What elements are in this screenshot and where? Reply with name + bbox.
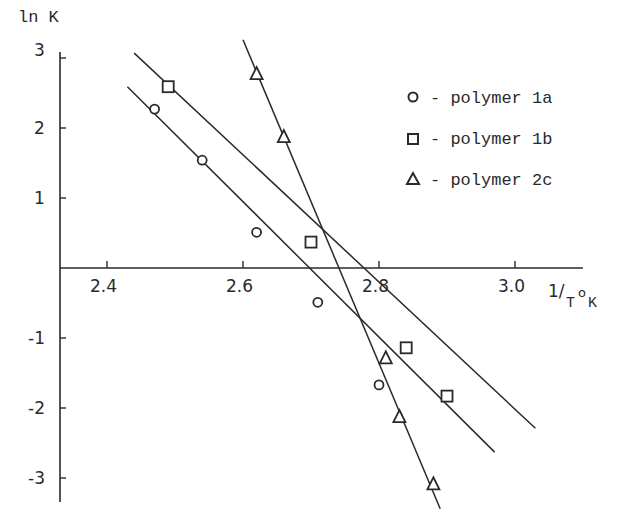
data-point-circle (313, 298, 322, 307)
x-axis-label-t: T (566, 295, 575, 312)
x-tick-label: 3.0 (498, 276, 525, 296)
legend-circle-icon (409, 93, 418, 102)
data-point-circle (150, 105, 159, 114)
y-tick-label: 3 (34, 40, 45, 60)
data-point-square (401, 342, 412, 353)
legend-label-1a: - polymer 1a (430, 89, 552, 108)
y-tick-label: -2 (28, 398, 45, 418)
fit-lines (127, 40, 535, 509)
data-point-square (442, 391, 453, 402)
legend-label-1b: - polymer 1b (430, 130, 552, 149)
x-tick-label: 2.6 (226, 276, 253, 296)
y-tick-label: 2 (34, 118, 45, 138)
data-point-circle (198, 156, 207, 165)
data-point-triangle (278, 130, 290, 142)
x-axis-label-num: 1/ (548, 281, 565, 301)
data-point-square (163, 81, 174, 92)
x-axis-label-deg: o (578, 285, 586, 300)
y-tick-label: -3 (28, 468, 45, 488)
data-point-triangle (393, 410, 405, 422)
legend-triangle-icon (407, 173, 419, 184)
x-axis-label-k: K (588, 295, 597, 312)
chart-canvas: 2.42.62.83.0321-1-2-3 ln K 1/ T o K - po… (0, 0, 638, 529)
legend: - polymer 1a - polymer 1b - polymer 2c (407, 89, 552, 190)
markers (150, 67, 452, 489)
y-tick-label: 1 (34, 188, 45, 208)
data-point-circle (252, 228, 261, 237)
fit-line-square (134, 53, 535, 428)
legend-label-2c: - polymer 2c (430, 171, 552, 190)
data-point-circle (375, 380, 384, 389)
data-point-triangle (380, 351, 392, 363)
data-point-square (306, 237, 317, 248)
legend-square-icon (408, 134, 418, 144)
x-tick-label: 2.4 (90, 276, 117, 296)
y-tick-label: -1 (28, 328, 45, 348)
y-axis-label: ln K (18, 8, 60, 27)
data-point-triangle (251, 67, 263, 79)
fit-line-triangle (243, 40, 440, 509)
x-axis-label: 1/ T o K (548, 281, 597, 312)
